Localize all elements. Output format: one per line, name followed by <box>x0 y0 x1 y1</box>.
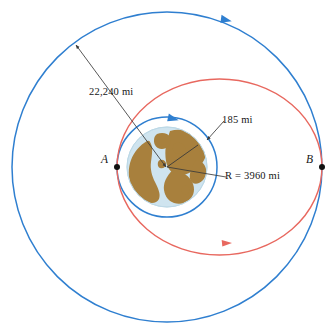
label-point-a: A <box>101 153 108 165</box>
orbit-diagram-svg <box>0 0 332 334</box>
label-earth-radius: R = 3960 mi <box>225 170 280 181</box>
diagram-canvas: 22,240 mi 185 mi R = 3960 mi A B <box>0 0 332 334</box>
label-inner-orbit-altitude: 185 mi <box>222 114 253 125</box>
label-outer-orbit-altitude: 22,240 mi <box>89 86 133 97</box>
transfer-orbit-direction-arrow-icon <box>222 239 233 247</box>
point-b-marker[interactable] <box>319 164 325 170</box>
point-a-marker[interactable] <box>114 164 120 170</box>
label-point-b: B <box>306 153 313 165</box>
